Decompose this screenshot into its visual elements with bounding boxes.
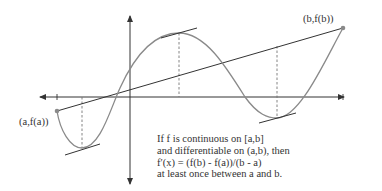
curve-f [57,28,343,148]
tangent-line-right-min [259,113,296,123]
tangent-line-left-min [65,144,100,155]
point-b-label: (b,f(b)) [303,14,334,25]
caption-line: at least once between a and b. [157,168,290,180]
caption-line: and differentiable on (a,b), then [157,145,290,157]
tangent-line-max [161,28,197,38]
endpoint-b [341,26,346,31]
endpoint-a [55,109,60,114]
point-a-label: (a,f(a)) [19,117,48,128]
caption-line: If f is continuous on [a,b] [157,133,290,145]
theorem-caption: If f is continuous on [a,b] and differen… [157,133,290,180]
mvt-diagram: (a,f(a)) (b,f(b)) If f is continuous on … [0,0,382,191]
caption-line: f′(x) = (f(b) - f(a))/(b - a) [157,157,290,169]
